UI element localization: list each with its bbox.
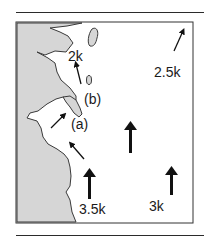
coastal-current-map: 2k 2.5k 3.5k 3k (b) (a) — [0, 0, 204, 238]
label-site-b: (b) — [84, 91, 101, 107]
label-3.5k: 3.5k — [79, 201, 106, 217]
label-2k: 2k — [68, 48, 84, 64]
island-small — [87, 76, 92, 85]
label-2.5k: 2.5k — [154, 64, 181, 80]
label-3k: 3k — [149, 198, 165, 214]
label-site-a: (a) — [71, 116, 88, 132]
bottom-rule — [16, 235, 204, 236]
